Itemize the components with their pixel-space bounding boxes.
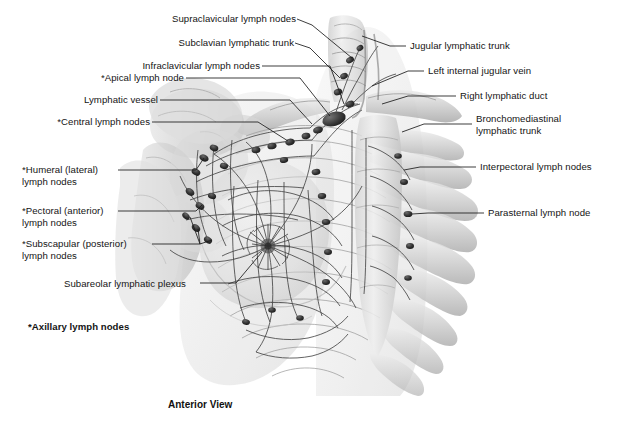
anatomy-figure-page: Supraclavicular lymph nodes Subclavian l…: [0, 0, 632, 425]
parasternal-lymph-node: [404, 211, 413, 217]
footnote-axillary-lymph-nodes: *Axillary lymph nodes: [28, 321, 208, 333]
label-right-lymphatic-duct: Right lymphatic duct: [460, 90, 630, 102]
label-subscapular-posterior-lymph-nodes: *Subscapular (posterior) lymph nodes: [22, 238, 168, 261]
label-bronchomediastinal-lymphatic-trunk: Bronchomediastinal lymphatic trunk: [476, 113, 626, 136]
label-infraclavicular-lymph-nodes: Infraclavicular lymph nodes: [24, 60, 260, 72]
label-central-lymph-nodes: *Central lymph nodes: [22, 116, 150, 128]
label-pectoral-anterior-lymph-nodes: *Pectoral (anterior) lymph nodes: [22, 205, 146, 228]
label-apical-lymph-node: *Apical lymph node: [24, 72, 184, 84]
label-supraclavicular-lymph-nodes: Supraclavicular lymph nodes: [28, 13, 296, 25]
label-jugular-lymphatic-trunk: Jugular lymphatic trunk: [410, 40, 590, 52]
figure-caption-anterior-view: Anterior View: [168, 399, 232, 410]
label-humeral-lateral-lymph-nodes: *Humeral (lateral) lymph nodes: [22, 164, 142, 187]
label-interpectoral-lymph-nodes: Interpectoral lymph nodes: [480, 161, 630, 173]
label-subareolar-lymphatic-plexus: Subareolar lymphatic plexus: [64, 278, 224, 290]
label-parasternal-lymph-node: Parasternal lymph node: [488, 207, 632, 219]
label-left-internal-jugular-vein: Left internal jugular vein: [428, 65, 618, 77]
label-subclavian-lymphatic-trunk: Subclavian lymphatic trunk: [28, 37, 294, 49]
label-lymphatic-vessel: Lymphatic vessel: [24, 94, 158, 106]
